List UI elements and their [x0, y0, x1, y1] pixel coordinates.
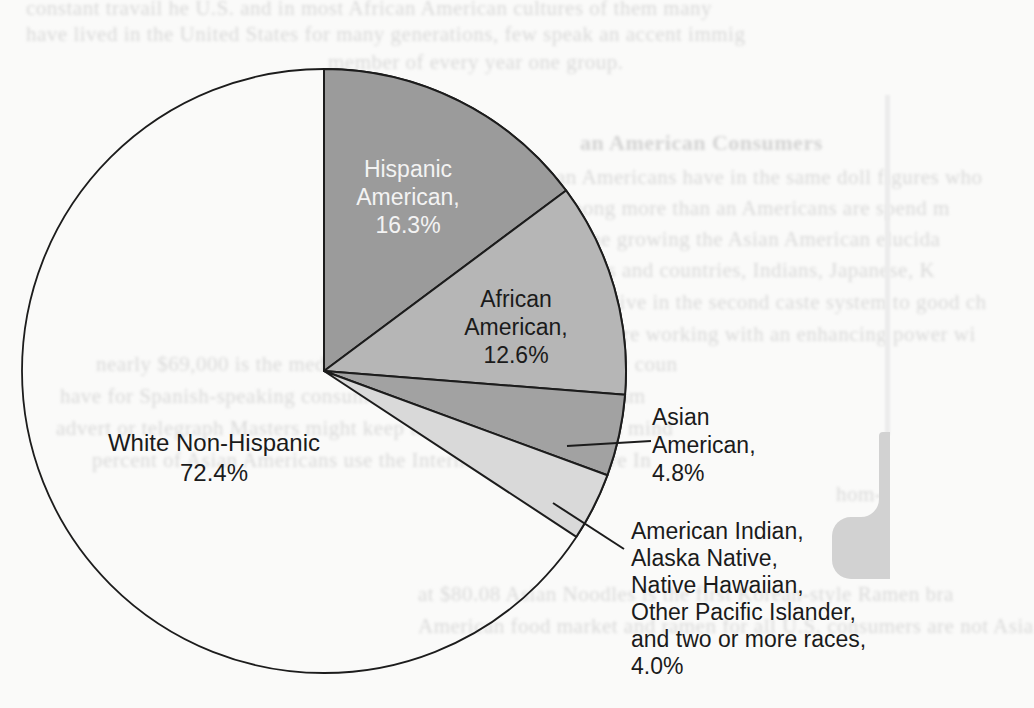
slice-label-white-non-hispanic: White Non-Hispanic 72.4% [59, 428, 369, 488]
slice-label-value: 4.8% [652, 459, 872, 487]
slice-label-value: 4.0% [631, 653, 887, 680]
slice-label-line: American, [652, 431, 872, 459]
slice-label-value: 72.4% [59, 458, 369, 488]
slice-label-line: American Indian, [631, 518, 887, 545]
slice-label-value: 16.3% [308, 211, 508, 239]
slice-label-hispanic-american: Hispanic American, 16.3% [308, 155, 508, 239]
slice-label-line: African [416, 285, 616, 313]
slice-label-african-american: African American, 12.6% [416, 285, 616, 369]
slice-label-line: Hispanic [308, 155, 508, 183]
slice-label-line: and two or more races, [631, 626, 887, 653]
slice-label-line: Native Hawaiian, [631, 572, 887, 599]
slice-label-line: Asian [652, 403, 872, 431]
slice-label-line: American, [308, 183, 508, 211]
slice-label-american-indian-other: American Indian, Alaska Native, Native H… [631, 518, 887, 680]
slice-label-asian-american: Asian American, 4.8% [652, 403, 872, 487]
slice-label-line: White Non-Hispanic [59, 428, 369, 458]
slice-label-value: 12.6% [416, 341, 616, 369]
slice-label-line: Other Pacific Islander, [631, 599, 887, 626]
slice-label-line: Alaska Native, [631, 545, 887, 572]
slice-label-line: American, [416, 313, 616, 341]
